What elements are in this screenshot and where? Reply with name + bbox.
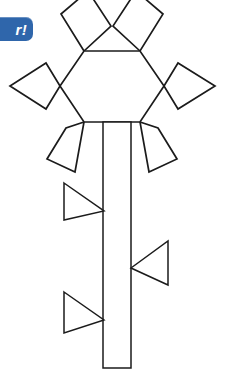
watermark-badge: r! — [0, 17, 33, 41]
stem-group — [103, 122, 131, 368]
drawing-canvas: r! — [0, 0, 228, 378]
petal-bottom-left-shape — [47, 122, 84, 172]
stem-shape — [103, 122, 131, 368]
leaf-upper-left-shape — [64, 183, 104, 220]
watermark-badge-label: r! — [16, 22, 27, 37]
petal-right-shape — [164, 63, 215, 109]
petal-bottom-right-shape — [140, 122, 177, 172]
leaf-middle-right-shape — [131, 241, 168, 285]
petal-top-right-shape — [113, 0, 163, 51]
petal-left-shape — [10, 63, 60, 109]
petal-top-left-shape — [61, 0, 111, 51]
hexagon-center-shape — [60, 51, 164, 122]
leaf-lower-left-shape — [64, 292, 104, 333]
flower-illustration — [0, 0, 228, 378]
